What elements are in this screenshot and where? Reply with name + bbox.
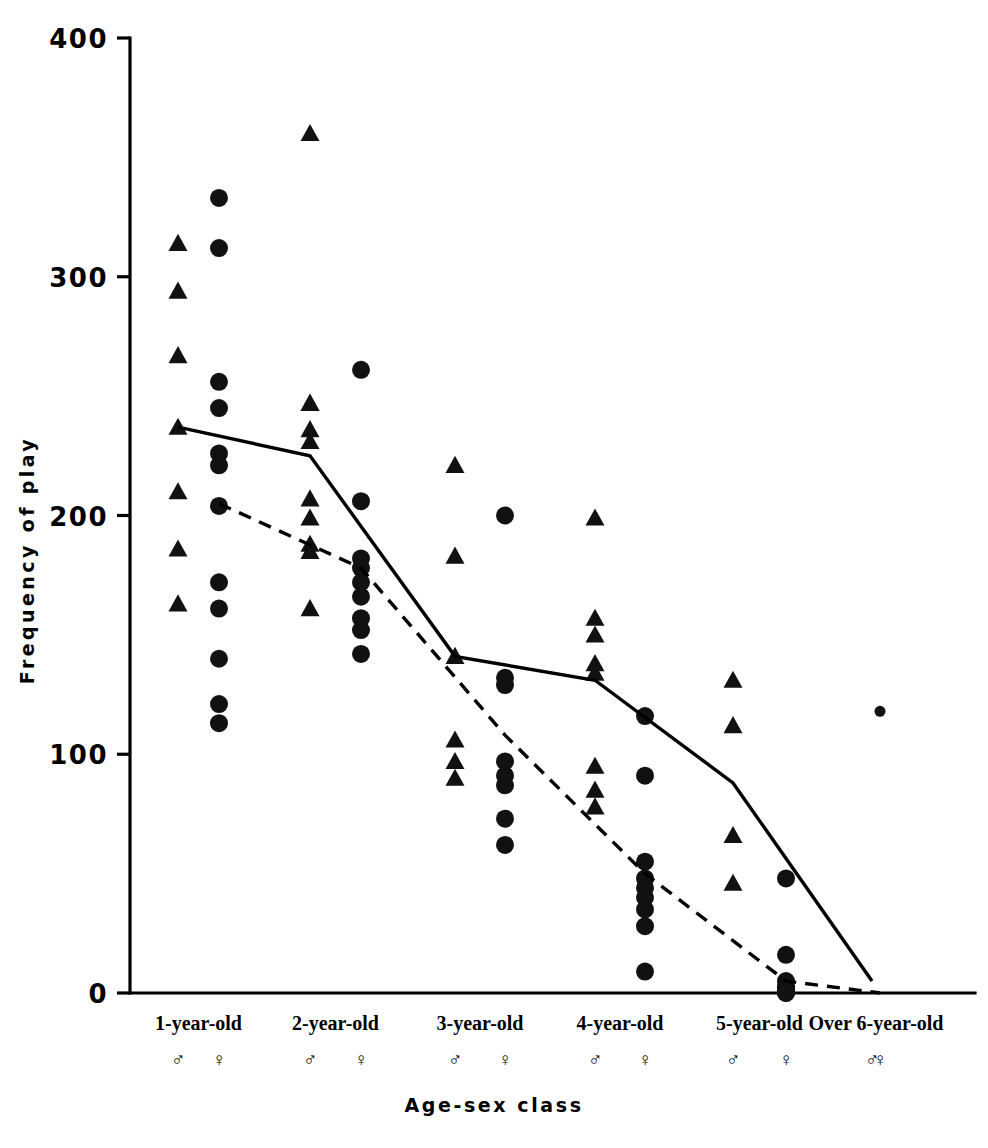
female-point (636, 767, 654, 785)
female-point (496, 810, 514, 828)
male-point (169, 418, 188, 435)
female-point (210, 573, 228, 591)
male-point (586, 508, 605, 525)
male-point (301, 489, 320, 506)
male-point (169, 594, 188, 611)
female-symbol-icon-4: ♀ (638, 1049, 652, 1070)
female-symbol-icon-1: ♀ (212, 1049, 226, 1070)
male-symbol-icon-1: ♂ (171, 1049, 185, 1070)
male-point (169, 282, 188, 299)
female-point (496, 776, 514, 794)
female-point (210, 600, 228, 618)
category-label-5: 5-year-old (716, 1012, 803, 1035)
male-point (724, 826, 743, 843)
female-point (210, 650, 228, 668)
female-point (496, 676, 514, 694)
y-tick-label-100: 100 (49, 740, 108, 770)
male-point (169, 234, 188, 251)
female-point (352, 588, 370, 606)
female-point (777, 984, 795, 1002)
male-data-points (169, 124, 743, 891)
category-labels-group: 1-year-old♂♀2-year-old♂♀3-year-old♂♀4-ye… (155, 1012, 943, 1070)
male-point (301, 394, 320, 411)
male-point (446, 547, 465, 564)
mean-trend-lines (178, 427, 880, 993)
y-tick-label-0: 0 (88, 979, 108, 1009)
male-point (169, 482, 188, 499)
male-point (724, 716, 743, 733)
y-tick-label-300: 300 (49, 263, 108, 293)
male-point (586, 797, 605, 814)
female-symbol-icon-3: ♀ (498, 1049, 512, 1070)
female-point (636, 900, 654, 918)
female-point (352, 621, 370, 639)
y-tick-label-400: 400 (49, 24, 108, 54)
male-point (586, 781, 605, 798)
female-point (210, 189, 228, 207)
female-point (352, 492, 370, 510)
female-symbol-icon-6: ♀ (873, 1049, 887, 1070)
female-point (496, 507, 514, 525)
category-label-2: 2-year-old (292, 1012, 379, 1035)
male-point (169, 346, 188, 363)
male-point (301, 599, 320, 616)
category-label-1: 1-year-old (155, 1012, 242, 1035)
female-point (777, 946, 795, 964)
male-point (724, 671, 743, 688)
female-mean-line (219, 504, 880, 993)
category-label-4: 4-year-old (576, 1012, 663, 1035)
male-point (724, 874, 743, 891)
category-label-3: 3-year-old (436, 1012, 523, 1035)
y-axis-ticks (117, 38, 130, 993)
male-point (301, 124, 320, 141)
female-point (636, 917, 654, 935)
scatter-plot-canvas: 0100200300400 Frequency of play Age-sex … (0, 0, 988, 1148)
category-label-6: Over 6-year-old (809, 1012, 944, 1035)
female-symbol-icon-2: ♀ (354, 1049, 368, 1070)
male-point (586, 609, 605, 626)
female-point (875, 706, 886, 717)
female-point (352, 645, 370, 663)
male-symbol-icon-5: ♂ (726, 1049, 740, 1070)
female-point (210, 239, 228, 257)
male-point (169, 539, 188, 556)
y-tick-label-200: 200 (49, 502, 108, 532)
female-point (210, 456, 228, 474)
y-axis-title: Frequency of play (16, 436, 38, 684)
male-mean-line (178, 427, 872, 981)
male-symbol-icon-3: ♂ (448, 1049, 462, 1070)
male-symbol-icon-4: ♂ (588, 1049, 602, 1070)
female-point (210, 714, 228, 732)
female-symbol-icon-5: ♀ (779, 1049, 793, 1070)
male-point (586, 757, 605, 774)
female-data-points (210, 189, 886, 1002)
female-point (777, 869, 795, 887)
female-point (210, 695, 228, 713)
male-point (586, 625, 605, 642)
female-point (210, 399, 228, 417)
y-axis-tick-labels: 0100200300400 (49, 24, 108, 1009)
male-point (301, 508, 320, 525)
x-axis-title: Age-sex class (404, 1094, 583, 1116)
male-point (446, 752, 465, 769)
male-point (446, 769, 465, 786)
female-point (496, 836, 514, 854)
female-point (352, 361, 370, 379)
chart-figure: 0100200300400 Frequency of play Age-sex … (0, 0, 988, 1148)
female-point (636, 963, 654, 981)
female-point (636, 853, 654, 871)
male-point (446, 730, 465, 747)
male-point (446, 456, 465, 473)
male-symbol-icon-2: ♂ (303, 1049, 317, 1070)
female-point (210, 373, 228, 391)
